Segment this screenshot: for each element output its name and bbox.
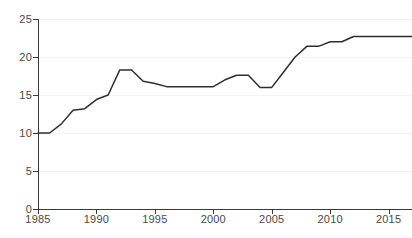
y-tick-mark-20 — [33, 57, 38, 58]
x-tick-mark-2005 — [272, 209, 273, 214]
x-tick-mark-2015 — [389, 209, 390, 214]
x-tick-label-2015: 2015 — [376, 213, 401, 225]
x-tick-mark-1990 — [96, 209, 97, 214]
x-tick-label-1990: 1990 — [84, 213, 109, 225]
y-tick-mark-15 — [33, 95, 38, 96]
line-chart: 0510152025 1985199019952000200520102015 — [0, 0, 412, 238]
series-layer — [0, 0, 412, 238]
y-tick-mark-25 — [33, 19, 38, 20]
x-tick-label-1995: 1995 — [142, 213, 167, 225]
x-tick-mark-2000 — [213, 209, 214, 214]
x-tick-label-2000: 2000 — [201, 213, 226, 225]
series-line-1 — [38, 36, 412, 133]
x-tick-mark-2010 — [330, 209, 331, 214]
y-tick-mark-5 — [33, 171, 38, 172]
y-tick-mark-10 — [33, 133, 38, 134]
x-tick-mark-1985 — [38, 209, 39, 214]
x-tick-mark-1995 — [155, 209, 156, 214]
x-tick-label-1985: 1985 — [25, 213, 50, 225]
x-tick-label-2005: 2005 — [259, 213, 284, 225]
x-tick-label-2010: 2010 — [318, 213, 343, 225]
